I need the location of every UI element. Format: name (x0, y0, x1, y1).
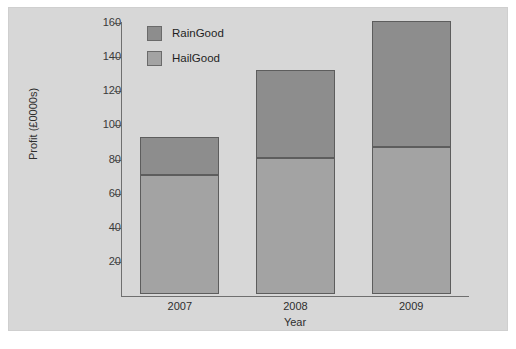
y-axis-tick-label: 160 (75, 16, 121, 28)
legend-item-label: HailGood (172, 52, 220, 64)
y-axis-tick-label-wrap: 160 (61, 23, 121, 24)
bar-segment-raingood[interactable] (140, 137, 219, 175)
legend-item-label: RainGood (172, 27, 224, 39)
y-axis-tick-label-wrap: 100 (61, 125, 121, 126)
bar-segment-raingood[interactable] (256, 70, 335, 157)
x-axis-tick-label: 2009 (366, 300, 456, 312)
y-axis-title: Profit (£0000s) (27, 64, 39, 184)
plot-area: 20406080100120140160 Profit (£0000s) Yea… (9, 8, 507, 330)
bar-segment-hailgood[interactable] (372, 147, 451, 294)
legend-item[interactable]: HailGood (147, 47, 224, 69)
y-axis-tick-label: 40 (75, 221, 121, 233)
bar-segment-raingood[interactable] (372, 21, 451, 147)
y-axis-tick-label: 100 (75, 118, 121, 130)
y-axis-tick-label-wrap: 140 (61, 57, 121, 58)
y-axis-tick-label-wrap: 80 (61, 160, 121, 161)
legend-swatch-icon (147, 26, 162, 41)
bar-stack[interactable] (256, 21, 335, 294)
legend-item[interactable]: RainGood (147, 22, 224, 44)
y-axis-tick-label: 80 (75, 153, 121, 165)
y-axis-line (121, 22, 122, 297)
legend-swatch-icon (147, 51, 162, 66)
y-axis-tick-label: 60 (75, 187, 121, 199)
y-axis-tick-label-wrap: 120 (61, 91, 121, 92)
bar-stack[interactable] (372, 21, 451, 294)
y-axis-tick-label-wrap: 60 (61, 194, 121, 195)
x-axis-title: Year (121, 316, 469, 328)
chart-figure-panel: 20406080100120140160 Profit (£0000s) Yea… (8, 7, 508, 331)
bar-segment-hailgood[interactable] (256, 158, 335, 295)
x-axis-tick-label: 2007 (135, 300, 225, 312)
y-axis-tick-label: 140 (75, 50, 121, 62)
chart-legend: RainGoodHailGood (147, 22, 224, 72)
y-axis-tick-label-wrap: 40 (61, 228, 121, 229)
y-axis-tick-label-wrap: 20 (61, 262, 121, 263)
x-axis-line (121, 296, 469, 297)
y-axis-tick-label: 120 (75, 84, 121, 96)
y-axis-tick-label: 20 (75, 255, 121, 267)
x-axis-tick-label: 2008 (251, 300, 341, 312)
bar-segment-hailgood[interactable] (140, 175, 219, 294)
